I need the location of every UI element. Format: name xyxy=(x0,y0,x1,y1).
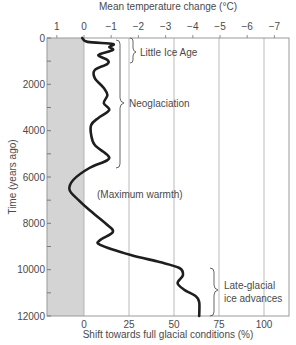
top-tick-label: −4 xyxy=(187,21,199,32)
top-tick-label: 1 xyxy=(54,21,60,32)
neoglaciation-bracket xyxy=(116,40,124,168)
top-tick-label: −2 xyxy=(133,21,145,32)
vertical-gridlines xyxy=(84,38,264,316)
data-curve xyxy=(69,38,199,316)
shaded-area xyxy=(47,38,84,316)
maximum-warmth-label: (Maximum warmth) xyxy=(97,189,183,200)
x-tick-label: 100 xyxy=(256,319,273,330)
top-tick-label: −5 xyxy=(214,21,226,32)
shaded-warm-region xyxy=(47,38,84,316)
late-glacial-label-line2: ice advances xyxy=(224,293,282,304)
y-tick-label: 12000 xyxy=(17,311,45,322)
bottom-axis-title: Shift towards full glacial conditions (%… xyxy=(83,329,254,340)
top-tick-label: −1 xyxy=(105,21,117,32)
top-axis-temperature: 10−1−2−3−4−5−6−7 xyxy=(54,21,281,38)
neoglaciation-label: Neoglaciation xyxy=(129,98,190,109)
little-ice-age-bracket xyxy=(130,38,136,63)
y-tick-label: 2000 xyxy=(23,79,46,90)
late-glacial-label-line1: Late-glacial xyxy=(224,280,275,291)
late-glacial-bracket xyxy=(210,268,218,316)
y-tick-label: 8000 xyxy=(23,218,46,229)
top-axis-title: Mean temperature change (°C) xyxy=(99,1,237,12)
top-tick-label: −6 xyxy=(241,21,253,32)
holocene-glacial-chart: 10−1−2−3−4−5−6−7 0255075100 020004000600… xyxy=(0,0,296,345)
top-tick-label: −7 xyxy=(269,21,281,32)
little-ice-age-label: Little Ice Age xyxy=(140,47,198,58)
y-tick-label: 4000 xyxy=(23,125,46,136)
y-tick-label: 6000 xyxy=(23,172,46,183)
y-tick-label: 0 xyxy=(39,33,45,44)
top-tick-label: 0 xyxy=(81,21,87,32)
top-tick-label: −3 xyxy=(160,21,172,32)
y-tick-label: 10000 xyxy=(17,264,45,275)
left-axis-time: 020004000600080001000012000 xyxy=(17,33,51,322)
left-axis-title: Time (years ago) xyxy=(7,139,18,214)
